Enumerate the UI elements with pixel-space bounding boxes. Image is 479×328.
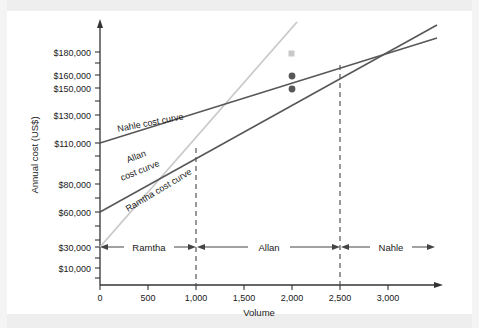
region-nahle-arrow-right — [427, 244, 435, 250]
region-allan-arrow-left — [197, 244, 205, 250]
region-label-ramtha: Ramtha — [132, 242, 166, 253]
y-axis-ticks — [95, 52, 100, 278]
x-tick-label-3000: 3,000 — [377, 293, 400, 303]
x-axis-ticks — [100, 285, 388, 290]
y-tick-label-10000: $10,000 — [58, 264, 91, 274]
region-allan-arrow-right — [332, 244, 340, 250]
x-axis — [100, 282, 443, 288]
x-tick-label-1500: 1,500 — [233, 293, 256, 303]
region-allan: Allan — [197, 240, 340, 254]
region-ramtha: Ramtha — [100, 240, 196, 254]
ramtha-data-point-marker — [289, 51, 295, 57]
region-label-allan: Allan — [258, 242, 279, 253]
x-axis-arrowhead — [434, 282, 443, 288]
x-tick-label-2500: 2,500 — [329, 293, 352, 303]
nahle-data-point-marker — [289, 73, 296, 80]
x-axis-title: Volume — [243, 307, 275, 318]
y-tick-label-80000: $80,000 — [58, 180, 91, 190]
y-tick-label-150000: $150,000 — [53, 84, 91, 94]
allan-data-point-marker — [289, 86, 296, 93]
region-nahle-arrow-left — [341, 244, 349, 250]
allan-cost-curve-label-line2: cost curve — [119, 158, 161, 183]
x-tick-label-500: 500 — [140, 293, 155, 303]
y-axis-title: Annual cost (US$) — [29, 116, 40, 193]
x-tick-label-2000: 2,000 — [281, 293, 304, 303]
x-tick-label-1000: 1,000 — [185, 293, 208, 303]
y-tick-label-130000: $130,000 — [53, 111, 91, 121]
y-tick-label-110000: $110,000 — [54, 139, 91, 149]
y-tick-label-180000: $180,000 — [53, 48, 91, 58]
nahle-cost-curve-label: Nahle cost curve — [116, 111, 184, 134]
cost-curve-chart: $180,000 $160,000 $150,000 $130,000 $110… — [0, 0, 479, 328]
x-tick-label-0: 0 — [97, 293, 102, 303]
region-nahle: Nahle — [341, 240, 435, 254]
y-tick-label-160000: $160,000 — [53, 71, 91, 81]
allan-cost-curve-label-line1: Allan — [125, 148, 147, 165]
y-axis-arrowhead — [97, 19, 103, 28]
chart-figure: $180,000 $160,000 $150,000 $130,000 $110… — [0, 0, 479, 328]
y-tick-label-30000: $30,000 — [58, 243, 91, 253]
region-label-nahle: Nahle — [379, 242, 404, 253]
region-ramtha-arrow-right — [188, 244, 196, 250]
y-tick-label-60000: $60,000 — [58, 208, 91, 218]
